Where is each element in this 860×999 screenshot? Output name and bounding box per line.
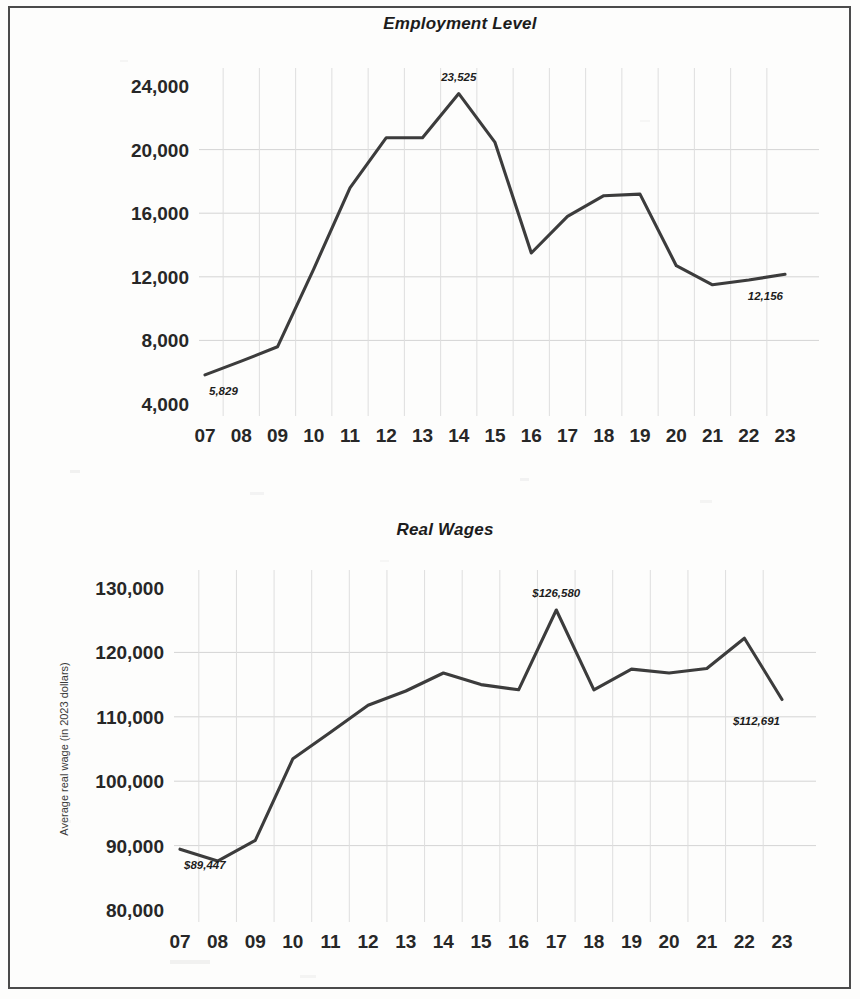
x-axis-tick-label: 07 xyxy=(194,425,215,446)
x-axis-tick-label: 22 xyxy=(734,931,755,952)
employment-chart-title: Employment Level xyxy=(0,14,860,34)
y-axis-title: Average real wage (in 2023 dollars) xyxy=(58,662,70,835)
x-axis-tick-label: 07 xyxy=(169,931,190,952)
employment-level-chart: Employment Level 4,0008,00012,00016,0002… xyxy=(0,14,860,479)
data-point-label: 12,156 xyxy=(748,290,784,302)
y-axis-tick-label: 16,000 xyxy=(131,203,189,224)
x-axis-tick-label: 15 xyxy=(484,425,506,446)
x-axis-tick-label: 12 xyxy=(376,425,397,446)
x-axis-tick-label: 13 xyxy=(395,931,416,952)
x-axis-tick-label: 16 xyxy=(508,931,529,952)
x-axis-tick-label: 11 xyxy=(340,425,361,446)
y-axis-tick-label: 4,000 xyxy=(141,394,189,415)
y-axis-tick-label: 12,000 xyxy=(131,267,189,288)
x-axis-tick-label: 09 xyxy=(267,425,288,446)
x-axis-tick-label: 09 xyxy=(245,931,266,952)
x-axis-tick-label: 19 xyxy=(629,425,650,446)
data-point-label: $112,691 xyxy=(732,715,780,727)
data-series-line xyxy=(180,610,782,861)
x-axis-tick-label: 10 xyxy=(303,425,324,446)
y-axis-tick-label: 24,000 xyxy=(131,76,189,97)
y-axis-tick-label: 130,000 xyxy=(95,578,164,599)
x-axis-tick-label: 15 xyxy=(470,931,492,952)
x-axis-tick-label: 14 xyxy=(448,425,470,446)
x-axis-tick-label: 20 xyxy=(659,931,680,952)
wages-chart-title: Real Wages xyxy=(0,520,860,540)
x-axis-tick-label: 21 xyxy=(696,931,718,952)
data-point-label: $126,580 xyxy=(531,587,581,599)
y-axis-tick-label: 8,000 xyxy=(141,330,189,351)
x-axis-tick-label: 17 xyxy=(557,425,578,446)
data-point-label: 5,829 xyxy=(209,385,238,397)
x-axis-tick-label: 10 xyxy=(282,931,303,952)
x-axis-tick-label: 08 xyxy=(207,931,228,952)
x-axis-tick-label: 12 xyxy=(358,931,379,952)
x-axis-tick-label: 17 xyxy=(546,931,567,952)
x-axis-tick-label: 08 xyxy=(231,425,252,446)
y-axis-tick-label: 90,000 xyxy=(106,836,164,857)
y-axis-tick-label: 110,000 xyxy=(96,707,164,728)
x-axis-tick-label: 19 xyxy=(621,931,642,952)
x-axis-tick-label: 16 xyxy=(521,425,542,446)
x-axis-tick-label: 18 xyxy=(593,425,614,446)
x-axis-tick-label: 11 xyxy=(320,931,341,952)
x-axis-tick-label: 23 xyxy=(771,931,792,952)
y-axis-tick-label: 20,000 xyxy=(131,140,189,161)
employment-chart-plot: 4,0008,00012,00016,00020,00024,000070809… xyxy=(0,34,860,464)
wages-chart-plot: 80,00090,000100,000110,000120,000130,000… xyxy=(0,540,860,980)
real-wages-chart: Real Wages 80,00090,000100,000110,000120… xyxy=(0,520,860,990)
x-axis-tick-label: 13 xyxy=(412,425,433,446)
data-point-label: $89,447 xyxy=(183,859,226,871)
x-axis-tick-label: 18 xyxy=(583,931,604,952)
x-axis-tick-label: 22 xyxy=(738,425,759,446)
data-series-line xyxy=(205,94,785,375)
x-axis-tick-label: 21 xyxy=(702,425,724,446)
x-axis-tick-label: 14 xyxy=(433,931,455,952)
scanned-page: Employment Level 4,0008,00012,00016,0002… xyxy=(0,0,860,999)
data-point-label: 23,525 xyxy=(440,71,477,83)
x-axis-tick-label: 23 xyxy=(774,425,795,446)
y-axis-tick-label: 100,000 xyxy=(95,771,164,792)
x-axis-tick-label: 20 xyxy=(666,425,687,446)
y-axis-tick-label: 120,000 xyxy=(95,642,164,663)
y-axis-tick-label: 80,000 xyxy=(106,900,164,921)
